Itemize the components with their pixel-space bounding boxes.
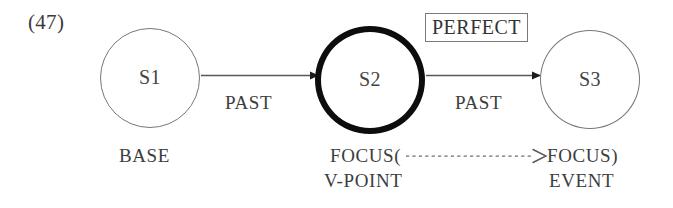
aspect-label-text: PERFECT <box>432 16 521 38</box>
state-node-s1-label: S1 <box>139 67 161 87</box>
state-node-s2[interactable]: S2 <box>315 26 425 134</box>
state-node-s1[interactable]: S1 <box>100 28 200 128</box>
edge-label-past-s2-s3: PAST <box>455 92 502 114</box>
annotation-base: BASE <box>119 145 170 167</box>
coreference-dotted-arrow <box>406 148 548 164</box>
state-node-s3-label: S3 <box>579 69 601 89</box>
coreference-arrowhead <box>533 150 546 163</box>
state-node-s2-label: S2 <box>359 69 381 89</box>
annotation-focus-close: FOCUS) <box>547 145 618 167</box>
annotation-v-point: V-POINT <box>324 170 402 192</box>
edge-label-past-s1-s2: PAST <box>225 92 272 114</box>
annotation-focus-open: FOCUS( <box>330 145 401 167</box>
annotation-event: EVENT <box>549 170 614 192</box>
aspect-label-box: PERFECT <box>425 13 528 42</box>
state-node-s3[interactable]: S3 <box>540 30 640 129</box>
example-number: (47) <box>28 9 64 35</box>
linguistics-state-diagram: (47) S1 S2 S3 PAST PAST PERFECT BASE FOC… <box>0 0 673 208</box>
